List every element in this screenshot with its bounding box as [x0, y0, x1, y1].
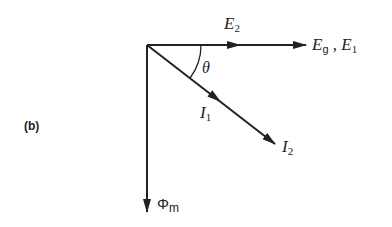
label-i2-sub: 2 — [288, 145, 294, 157]
label-e2-sub: 2 — [234, 22, 240, 34]
label-phi-m: Φm — [157, 196, 179, 214]
label-i2: I2 — [282, 138, 293, 157]
label-e2-main: E — [224, 14, 234, 33]
label-eg-main: E — [312, 35, 322, 54]
label-phi-main: Φ — [157, 195, 169, 212]
label-phi-sub: m — [169, 201, 179, 215]
label-i1-sub: 1 — [206, 111, 212, 123]
label-theta: θ — [202, 60, 210, 76]
label-eg-e1: Eg , E1 — [312, 36, 357, 55]
phasor-diagram: (b) E2 Eg , E1 θ I1 I2 Φm — [0, 0, 392, 227]
label-e2: E2 — [224, 15, 240, 34]
label-separator: , — [329, 35, 342, 54]
label-e1-sub: 1 — [352, 43, 358, 55]
panel-label: (b) — [24, 119, 39, 133]
vector-e2-arrowhead — [227, 41, 241, 49]
angle-arc — [190, 45, 201, 78]
label-i1: I1 — [200, 104, 211, 123]
label-e1-main: E — [341, 35, 351, 54]
